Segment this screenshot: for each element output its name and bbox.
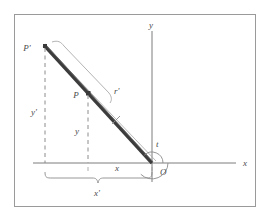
label-x-axis: x — [242, 158, 247, 168]
point-p-prime-marker — [43, 44, 47, 48]
label-origin: O — [160, 167, 167, 177]
label-y-prime: y' — [30, 107, 38, 117]
label-y-axis: y — [148, 20, 153, 30]
point-p-marker — [86, 91, 91, 96]
label-x-span: x — [114, 163, 119, 173]
geometry-diagram: P' P r' r t O x y y' y x x' — [0, 0, 270, 221]
label-y: y — [74, 126, 79, 136]
label-p-prime: P' — [22, 43, 31, 53]
label-x-prime-span: x' — [93, 188, 101, 198]
label-p: P — [72, 90, 79, 100]
figure-container: P' P r' r t O x y y' y x x' — [0, 0, 270, 221]
